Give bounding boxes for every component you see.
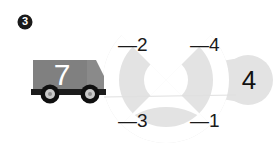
question-number-badge: 3 (18, 15, 33, 30)
illustration-svg: 4 —2 —4 —3 —1 (0, 0, 278, 155)
worksheet-canvas: 4 —2 —4 —3 —1 (0, 0, 278, 155)
badge-label: 3 (22, 15, 28, 27)
wheel-label-upper-left: —2 (118, 34, 148, 55)
truck-rear-wheel (41, 85, 60, 104)
truck-number-label: 7 (54, 58, 71, 91)
wheel-label-lower-left: —3 (118, 110, 148, 131)
truck-front-wheel (81, 85, 100, 104)
wheel-label-upper-right: —4 (190, 34, 220, 55)
wheel-label-lower-right: —1 (190, 110, 220, 131)
